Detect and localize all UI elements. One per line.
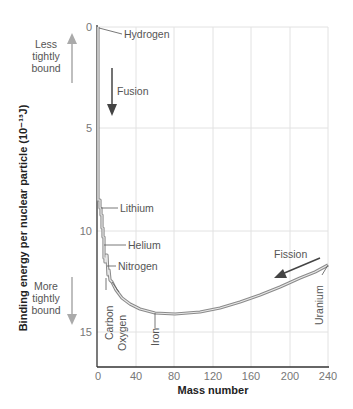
svg-text:tightly: tightly xyxy=(32,50,60,62)
svg-text:15: 15 xyxy=(80,326,92,338)
label-fission: Fission xyxy=(274,248,307,260)
x-axis-ticks: 0 40 80 120 160 200 240 xyxy=(95,370,337,382)
svg-text:10: 10 xyxy=(80,225,92,237)
label-oxygen: Oxygen xyxy=(116,315,128,351)
svg-text:80: 80 xyxy=(168,370,180,382)
gridlines xyxy=(97,27,328,367)
svg-text:Less: Less xyxy=(35,38,57,50)
fusion-arrow-icon xyxy=(107,68,117,116)
label-uranium: Uranium xyxy=(313,285,325,325)
label-iron: Iron xyxy=(149,328,161,346)
svg-text:120: 120 xyxy=(204,370,222,382)
svg-text:bound: bound xyxy=(31,62,60,74)
svg-text:240: 240 xyxy=(319,370,337,382)
label-lithium: Lithium xyxy=(120,202,154,214)
svg-text:tightly: tightly xyxy=(32,292,60,304)
y-axis-label: Binding energy per nuclear particle (10⁻… xyxy=(17,104,29,331)
label-nitrogen: Nitrogen xyxy=(118,260,158,272)
svg-text:0: 0 xyxy=(86,21,92,33)
label-hydrogen: Hydrogen xyxy=(124,28,170,40)
y-axis-ticks: 0 5 10 15 xyxy=(80,21,92,338)
binding-energy-chart: 0 5 10 15 0 40 80 120 160 200 240 Mass n… xyxy=(0,0,353,409)
svg-text:40: 40 xyxy=(130,370,142,382)
svg-text:160: 160 xyxy=(242,370,260,382)
svg-text:0: 0 xyxy=(95,370,101,382)
x-axis-label: Mass number xyxy=(178,384,250,396)
less-tightly-bound-note: Less tightly bound xyxy=(31,33,77,83)
svg-text:More: More xyxy=(34,280,58,292)
svg-text:bound: bound xyxy=(31,304,60,316)
label-fusion: Fusion xyxy=(117,85,149,97)
label-helium: Helium xyxy=(128,239,161,251)
svg-text:5: 5 xyxy=(86,122,92,134)
more-tightly-bound-note: More tightly bound xyxy=(31,277,77,325)
label-carbon: Carbon xyxy=(103,305,115,340)
fission-arrow-icon xyxy=(274,258,320,278)
svg-text:200: 200 xyxy=(281,370,299,382)
